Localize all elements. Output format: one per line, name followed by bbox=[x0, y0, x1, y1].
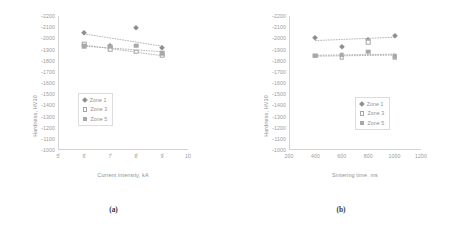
trendline bbox=[84, 46, 162, 52]
y-axis-tick-mark bbox=[41, 128, 44, 129]
y-axis-tick-mark bbox=[41, 150, 44, 151]
plot-area-b: 1000110012001300140015001600170018001900… bbox=[289, 16, 421, 150]
x-axis-tick-label: 600 bbox=[337, 153, 346, 159]
y-axis-tick-label: 1900 bbox=[274, 47, 286, 53]
x-axis-tick-mark bbox=[58, 153, 59, 156]
x-axis-tick-label: 1200 bbox=[415, 153, 427, 159]
legend-marker-open-square bbox=[83, 107, 87, 111]
panel-caption-b: (b) bbox=[227, 205, 455, 214]
y-axis-title-a: Hardness, HV30 bbox=[32, 95, 38, 137]
legend-label: Zone 1 bbox=[90, 97, 107, 103]
x-axis-tick-mark bbox=[84, 153, 85, 156]
y-axis-tick-label: 1500 bbox=[274, 91, 286, 97]
y-axis-tick-label: 1600 bbox=[274, 80, 286, 86]
y-axis-tick-mark bbox=[41, 72, 44, 73]
legend-label: Zone 5 bbox=[90, 116, 107, 122]
y-axis-tick-label: 1400 bbox=[274, 102, 286, 108]
y-axis-tick-label: 1900 bbox=[43, 47, 55, 53]
x-axis-tick-mark bbox=[342, 153, 343, 156]
x-axis-tick-label: 800 bbox=[364, 153, 373, 159]
trendline-group-b bbox=[289, 16, 421, 150]
y-axis-tick-mark bbox=[272, 128, 275, 129]
x-axis-tick-mark bbox=[188, 153, 189, 156]
y-axis-tick-mark bbox=[272, 72, 275, 73]
data-point-zone-5 bbox=[160, 51, 165, 56]
y-axis-tick-label: 2200 bbox=[274, 13, 286, 19]
y-axis-tick-mark bbox=[41, 61, 44, 62]
x-axis-tick-label: 5 bbox=[57, 153, 60, 159]
x-axis-tick-mark bbox=[162, 153, 163, 156]
legend-item: Zone 3 bbox=[83, 106, 107, 112]
y-axis-tick-mark bbox=[272, 16, 275, 17]
x-axis-tick-mark bbox=[315, 153, 316, 156]
y-axis-tick-mark bbox=[272, 61, 275, 62]
data-point-zone-5 bbox=[313, 53, 318, 58]
legend-marker-open-square bbox=[360, 111, 364, 115]
x-axis-tick-mark bbox=[110, 153, 111, 156]
y-axis-tick-mark bbox=[272, 38, 275, 39]
y-axis-tick-label: 2200 bbox=[43, 13, 55, 19]
x-axis-tick-mark bbox=[421, 153, 422, 156]
plot-area-a: 1000110012001300140015001600170018001900… bbox=[58, 16, 188, 150]
y-axis-tick-mark bbox=[272, 105, 275, 106]
y-axis-tick-label: 1800 bbox=[274, 58, 286, 64]
legend-marker-filled-square bbox=[83, 117, 87, 121]
data-point-zone-3 bbox=[366, 40, 371, 45]
y-axis-title-b: Hardness, HV30 bbox=[263, 95, 269, 137]
legend-item: Zone 3 bbox=[360, 110, 384, 116]
x-axis-tick-mark bbox=[395, 153, 396, 156]
y-axis-tick-label: 1200 bbox=[43, 125, 55, 131]
chart-panel-b: Hardness, HV30 1000110012001300140015001… bbox=[227, 0, 455, 232]
y-axis-tick-label: 2100 bbox=[274, 24, 286, 30]
x-axis-tick-label: 400 bbox=[311, 153, 320, 159]
y-axis-tick-label: 1000 bbox=[43, 147, 55, 153]
x-axis-tick-label: 1000 bbox=[389, 153, 401, 159]
y-axis-tick-mark bbox=[41, 38, 44, 39]
x-axis-title-b: Sintering time, ms bbox=[289, 172, 421, 178]
y-axis-tick-label: 1300 bbox=[274, 114, 286, 120]
trendline-group-a bbox=[58, 16, 188, 150]
legend-label: Zone 3 bbox=[90, 106, 107, 112]
x-axis-tick-label: 9 bbox=[161, 153, 164, 159]
data-point-zone-5 bbox=[82, 44, 87, 49]
legend-label: Zone 5 bbox=[367, 120, 384, 126]
y-axis-tick-label: 1800 bbox=[43, 58, 55, 64]
y-axis-tick-mark bbox=[272, 139, 275, 140]
y-axis-tick-mark bbox=[41, 94, 44, 95]
legend-a: Zone 1Zone 3Zone 5 bbox=[78, 93, 113, 126]
y-axis-tick-mark bbox=[41, 139, 44, 140]
y-axis-tick-mark bbox=[272, 94, 275, 95]
trendline bbox=[84, 45, 162, 56]
legend-item: Zone 5 bbox=[83, 116, 107, 122]
x-axis-tick-label: 8 bbox=[135, 153, 138, 159]
y-axis-tick-label: 1100 bbox=[43, 136, 55, 142]
y-axis-tick-label: 1100 bbox=[274, 136, 286, 142]
y-axis-tick-label: 2100 bbox=[43, 24, 55, 30]
y-axis-tick-mark bbox=[41, 83, 44, 84]
x-axis-tick-label: 10 bbox=[185, 153, 191, 159]
legend-label: Zone 3 bbox=[367, 110, 384, 116]
y-axis-tick-mark bbox=[41, 105, 44, 106]
trendline bbox=[84, 34, 162, 46]
x-axis-tick-mark bbox=[368, 153, 369, 156]
y-axis-tick-mark bbox=[272, 27, 275, 28]
y-axis-tick-label: 1700 bbox=[43, 69, 55, 75]
legend-item: Zone 5 bbox=[360, 120, 384, 126]
data-point-zone-5 bbox=[366, 49, 371, 54]
y-axis-tick-mark bbox=[41, 16, 44, 17]
y-axis-tick-label: 1300 bbox=[43, 114, 55, 120]
data-point-zone-5 bbox=[340, 52, 345, 57]
data-point-zone-5 bbox=[108, 44, 113, 49]
y-axis-tick-label: 1200 bbox=[274, 125, 286, 131]
y-axis-tick-label: 2000 bbox=[43, 35, 55, 41]
x-axis-tick-label: 200 bbox=[285, 153, 294, 159]
x-axis-tick-mark bbox=[289, 153, 290, 156]
x-axis-title-a: Current intensity, kA bbox=[58, 172, 188, 178]
y-axis-tick-label: 1500 bbox=[43, 91, 55, 97]
panel-caption-a: (a) bbox=[0, 205, 227, 214]
chart-panel-a: Hardness, HV30 1000110012001300140015001… bbox=[0, 0, 227, 232]
data-point-zone-3 bbox=[134, 49, 139, 54]
legend-item: Zone 1 bbox=[83, 97, 107, 103]
x-axis-tick-label: 7 bbox=[109, 153, 112, 159]
data-point-zone-5 bbox=[392, 54, 397, 59]
